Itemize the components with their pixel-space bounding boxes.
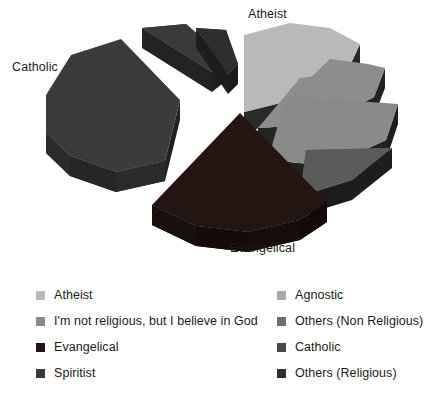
pie-label-atheist: Atheist <box>248 7 287 21</box>
legend-swatch-icon <box>36 343 45 352</box>
pie-label-catholic: Catholic <box>12 60 58 74</box>
legend-label: Atheist <box>54 288 93 302</box>
legend-swatch-icon <box>36 317 45 326</box>
legend-swatch-icon <box>36 369 45 378</box>
legend-column-right: Agnostic Others (Non Religious) Catholic… <box>277 282 423 386</box>
legend-label: Evangelical <box>54 340 118 354</box>
legend-item-others-religious: Others (Religious) <box>277 360 423 386</box>
legend-item-spiritist: Spiritist <box>36 360 258 386</box>
legend-swatch-icon <box>277 291 286 300</box>
pie-chart-plot-area: Atheist Catholic Evangelical <box>0 0 443 272</box>
pie-slice-catholic <box>46 39 180 192</box>
legend-item-atheist: Atheist <box>36 282 258 308</box>
legend-label: Others (Non Religious) <box>295 314 423 328</box>
legend-label: Agnostic <box>295 288 343 302</box>
pie-chart-graphic <box>0 0 443 272</box>
pie-label-evangelical: Evangelical <box>230 241 295 255</box>
legend-item-evangelical: Evangelical <box>36 334 258 360</box>
chart-legend: Atheist I'm not religious, but I believe… <box>0 282 443 397</box>
legend-swatch-icon <box>277 317 286 326</box>
legend-item-others-non-religious: Others (Non Religious) <box>277 308 423 334</box>
legend-label: I'm not religious, but I believe in God <box>54 314 258 328</box>
pie-chart-figure: Atheist Catholic Evangelical Atheist I'm… <box>0 0 443 397</box>
legend-swatch-icon <box>277 343 286 352</box>
legend-item-not-religious-believe-god: I'm not religious, but I believe in God <box>36 308 258 334</box>
legend-item-agnostic: Agnostic <box>277 282 423 308</box>
legend-label: Spiritist <box>54 366 95 380</box>
legend-label: Catholic <box>295 340 341 354</box>
legend-label: Others (Religious) <box>295 366 397 380</box>
legend-swatch-icon <box>277 369 286 378</box>
legend-column-left: Atheist I'm not religious, but I believe… <box>36 282 258 386</box>
legend-swatch-icon <box>36 291 45 300</box>
legend-item-catholic: Catholic <box>277 334 423 360</box>
